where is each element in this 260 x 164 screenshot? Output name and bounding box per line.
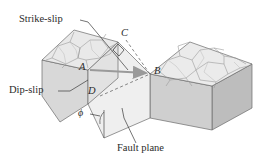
label-strike-slip: Strike-slip (19, 14, 63, 25)
label-dip-slip: Dip-slip (9, 85, 43, 96)
label-fault-plane: Fault plane (117, 143, 164, 154)
label-point-b: B (154, 66, 160, 77)
fault-block-diagram: Strike-slip Dip-slip Fault plane A B C D… (0, 0, 260, 164)
label-point-a: A (79, 62, 85, 73)
label-point-d: D (88, 86, 96, 97)
right-block (150, 42, 252, 130)
label-angle-phi: ϕ (78, 108, 83, 118)
fault-diagram-graphic (0, 0, 260, 164)
label-point-c: C (121, 28, 128, 39)
